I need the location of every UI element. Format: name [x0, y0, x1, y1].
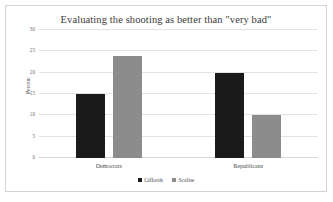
chart-title: Evaluating the shooting as better than "… — [6, 14, 326, 25]
legend-label: Scalise — [179, 177, 195, 183]
gridline: 30 — [39, 29, 318, 30]
y-axis-tick-label: 15 — [30, 90, 35, 96]
legend-swatch-icon — [172, 178, 176, 182]
x-axis-tick-label: Democrats — [96, 163, 122, 169]
legend-item: Scalise — [172, 177, 194, 183]
legend-label: Giffords — [144, 177, 163, 183]
chart-legend: GiffordsScalise — [6, 177, 326, 183]
bar — [76, 94, 105, 158]
y-axis-tick-label: 5 — [32, 133, 35, 139]
y-axis-tick-label: 30 — [30, 26, 35, 32]
chart-container: Evaluating the shooting as better than "… — [5, 5, 327, 192]
bar — [215, 73, 244, 158]
y-axis-tick-label: 20 — [30, 69, 35, 75]
gridline: 25 — [39, 50, 318, 51]
x-axis-tick-label: Republicans — [233, 163, 263, 169]
legend-swatch-icon — [138, 178, 142, 182]
bar — [113, 56, 142, 158]
bar — [252, 115, 281, 158]
legend-item: Giffords — [138, 177, 163, 183]
plot-area: 051015202530 DemocratsRepublicans — [39, 30, 318, 158]
gridline: 20 — [39, 72, 318, 73]
y-axis-tick-label: 10 — [30, 111, 35, 117]
y-axis-tick-label: 25 — [30, 47, 35, 53]
y-axis-tick-label: 0 — [32, 154, 35, 160]
